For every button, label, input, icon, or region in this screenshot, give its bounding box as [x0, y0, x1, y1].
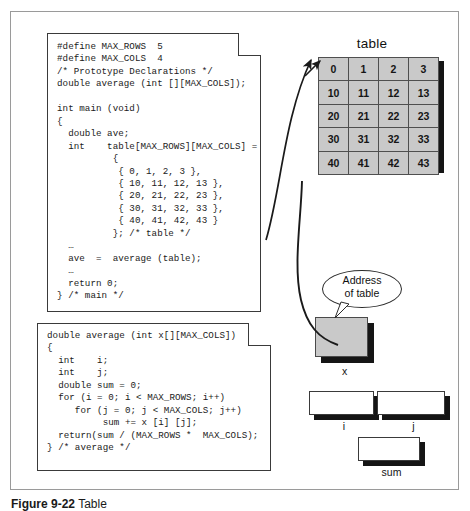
variable-sum-diagram: sum	[358, 437, 448, 483]
variable-x-label: x	[315, 365, 374, 377]
variable-i-label: i	[309, 420, 379, 432]
table-cell: 1	[349, 58, 379, 81]
table-cell: 23	[409, 104, 439, 127]
table-cell: 30	[319, 128, 349, 151]
table-cell: 21	[349, 104, 379, 127]
table-row: 10111213	[319, 81, 439, 104]
table-cell: 3	[409, 58, 439, 81]
table-cell: 42	[379, 151, 409, 174]
table-cell: 41	[349, 151, 379, 174]
table-cell: 0	[319, 58, 349, 81]
figure-caption-label: Figure 9-22	[11, 497, 75, 511]
table-cell: 22	[379, 104, 409, 127]
variable-i-diagram: i	[309, 391, 385, 433]
table-row: 30313233	[319, 128, 439, 151]
table-cell: 32	[379, 128, 409, 151]
variable-x-diagram: x	[315, 317, 395, 379]
table-cell: 33	[409, 128, 439, 151]
table-row: 0123	[319, 58, 439, 81]
table-cell: 13	[409, 81, 439, 104]
callout-line-1: Address	[322, 274, 402, 287]
code-main-text: #define MAX_ROWS 5 #define MAX_COLS 4 /*…	[48, 34, 260, 309]
code-average-text: double average (int x[][MAX_COLS]) { int…	[38, 324, 270, 461]
table-cell: 31	[349, 128, 379, 151]
table-grid: 012310111213202122233031323340414243	[318, 57, 439, 175]
table-row: 20212223	[319, 104, 439, 127]
figure-root: #define MAX_ROWS 5 #define MAX_COLS 4 /*…	[0, 0, 470, 511]
page-fold-diagonal	[247, 323, 271, 347]
variable-j-box	[377, 391, 445, 415]
table-cell: 2	[379, 58, 409, 81]
variable-x-box	[315, 317, 368, 357]
table-cell: 40	[319, 151, 349, 174]
table-cell: 20	[319, 104, 349, 127]
variable-j-diagram: j	[377, 391, 457, 433]
figure-caption: Figure 9-22 Table	[11, 497, 107, 511]
table-cell: 10	[319, 81, 349, 104]
variable-i-box	[309, 391, 374, 415]
table-diagram: table 0123101112132021222330313233404142…	[307, 36, 452, 186]
table-row: 40414243	[319, 151, 439, 174]
page-fold-diagonal	[237, 33, 261, 57]
table-cell: 12	[379, 81, 409, 104]
variable-sum-box	[358, 437, 420, 461]
callout-text: Address of table	[322, 274, 402, 300]
variable-sum-label: sum	[358, 466, 425, 478]
table-cell: 11	[349, 81, 379, 104]
figure-caption-text: Table	[78, 497, 107, 511]
code-block-main: #define MAX_ROWS 5 #define MAX_COLS 4 /*…	[47, 33, 261, 312]
table-title-label: table	[307, 36, 437, 51]
code-block-average: double average (int x[][MAX_COLS]) { int…	[37, 323, 271, 471]
variable-j-label: j	[377, 420, 450, 432]
table-cell: 43	[409, 151, 439, 174]
table-body: 012310111213202122233031323340414243	[319, 58, 439, 175]
callout-line-2: of table	[322, 287, 402, 300]
address-of-table-callout: Address of table	[322, 270, 402, 316]
